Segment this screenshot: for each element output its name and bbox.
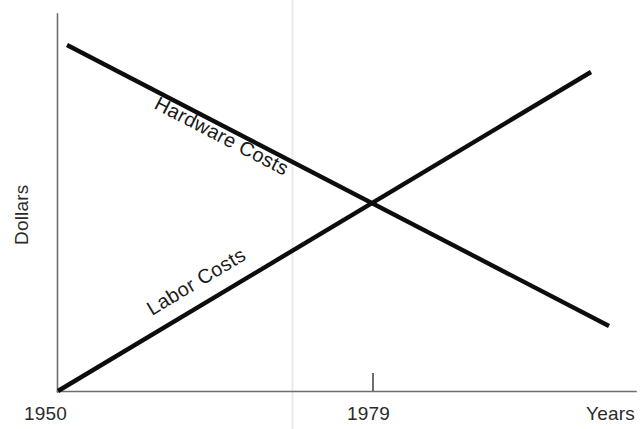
series-line-hardware-costs [67,45,609,326]
chart-canvas: Hardware Costs Labor Costs Dollars 1950 … [0,0,644,429]
y-axis-title: Dollars [11,184,32,245]
x-axis-title: Years [586,403,635,424]
x-axis-label-1950: 1950 [24,403,67,424]
series-label-hardware-costs: Hardware Costs [151,92,292,179]
chart-container: Hardware Costs Labor Costs Dollars 1950 … [0,0,644,429]
x-axis-label-1979: 1979 [347,403,390,424]
series-line-labor-costs [58,72,591,391]
